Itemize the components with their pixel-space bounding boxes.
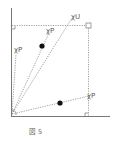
corner-square-marker (86, 23, 91, 28)
label-p-upper: χP (46, 27, 54, 35)
label-p-left: χP (14, 46, 22, 54)
right-angle-mark-top-left (12, 26, 15, 29)
ray-to-u (12, 18, 72, 114)
point-dot-upper (39, 43, 44, 48)
figure-5-diagram: χU χP χP χP 図 5 (0, 0, 118, 143)
label-u: χU (71, 13, 80, 21)
point-dot-lower (57, 100, 62, 105)
ray-to-p-left (12, 54, 16, 114)
label-p-right: χP (87, 92, 95, 100)
right-angle-mark-bottom-right (85, 113, 88, 116)
ray-to-p-right (12, 96, 89, 114)
figure-caption: 図 5 (29, 128, 42, 136)
